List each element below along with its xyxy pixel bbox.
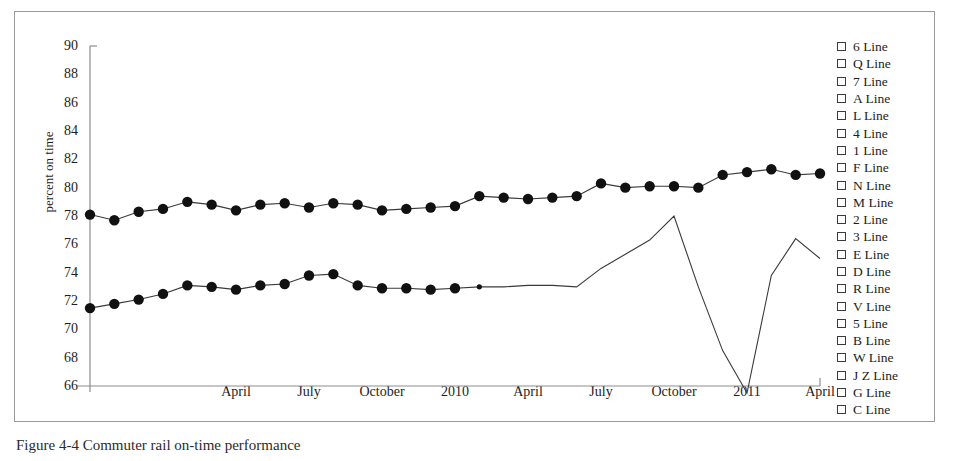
- checkbox-icon[interactable]: [837, 163, 846, 172]
- legend-item[interactable]: 5 Line: [837, 315, 933, 332]
- legend-item-label: N Line: [853, 178, 891, 193]
- checkbox-icon[interactable]: [837, 77, 846, 86]
- legend-item[interactable]: L Line: [837, 107, 933, 124]
- figure-frame: percent on time 908886848280787674727068…: [14, 11, 935, 422]
- data-point-marker: [255, 280, 265, 290]
- legend-item[interactable]: G Line: [837, 384, 933, 401]
- data-point-marker: [401, 283, 411, 293]
- series-line-upper-series: [90, 169, 820, 220]
- checkbox-icon[interactable]: [837, 181, 846, 190]
- legend-item-label: C Line: [853, 402, 890, 417]
- legend: 6 LineQ Line7 LineA LineL Line4 Line1 Li…: [837, 38, 933, 419]
- legend-item-label: R Line: [853, 281, 890, 296]
- checkbox-icon[interactable]: [837, 267, 846, 276]
- legend-item[interactable]: M Line: [837, 194, 933, 211]
- data-point-marker: [571, 191, 581, 201]
- data-point-marker: [717, 170, 727, 180]
- checkbox-icon[interactable]: [837, 111, 846, 120]
- checkbox-icon[interactable]: [837, 302, 846, 311]
- legend-item[interactable]: F Line: [837, 159, 933, 176]
- data-point-marker: [477, 284, 482, 289]
- data-point-marker: [279, 279, 289, 289]
- legend-item[interactable]: 1 Line: [837, 142, 933, 159]
- data-point-marker: [109, 299, 119, 309]
- figure-caption: Figure 4-4 Commuter rail on-time perform…: [16, 436, 936, 461]
- data-point-marker: [377, 205, 387, 215]
- legend-item[interactable]: R Line: [837, 280, 933, 297]
- checkbox-icon[interactable]: [837, 284, 846, 293]
- checkbox-icon[interactable]: [837, 129, 846, 138]
- legend-item[interactable]: Q Line: [837, 55, 933, 72]
- checkbox-icon[interactable]: [837, 232, 846, 241]
- checkbox-icon[interactable]: [837, 94, 846, 103]
- legend-item-label: V Line: [853, 299, 891, 314]
- legend-item[interactable]: 2 Line: [837, 211, 933, 228]
- checkbox-icon[interactable]: [837, 388, 846, 397]
- checkbox-icon[interactable]: [837, 59, 846, 68]
- legend-item-label: G Line: [853, 385, 891, 400]
- legend-item-label: L Line: [853, 108, 889, 123]
- data-point-marker: [158, 289, 168, 299]
- data-point-marker: [109, 215, 119, 225]
- data-point-marker: [352, 199, 362, 209]
- data-point-marker: [231, 205, 241, 215]
- checkbox-icon[interactable]: [837, 215, 846, 224]
- legend-item[interactable]: C Line: [837, 401, 933, 418]
- data-point-marker: [693, 182, 703, 192]
- data-point-marker: [158, 204, 168, 214]
- plot-svg: [15, 12, 936, 423]
- checkbox-icon[interactable]: [837, 353, 846, 362]
- checkbox-icon[interactable]: [837, 42, 846, 51]
- legend-item[interactable]: W Line: [837, 349, 933, 366]
- data-point-marker: [547, 192, 557, 202]
- legend-item[interactable]: E Line: [837, 246, 933, 263]
- checkbox-icon[interactable]: [837, 405, 846, 414]
- data-series-group: [85, 164, 825, 393]
- legend-item-label: D Line: [853, 264, 891, 279]
- data-point-marker: [425, 202, 435, 212]
- legend-item[interactable]: 6 Line: [837, 38, 933, 55]
- legend-item-label: 1 Line: [853, 143, 888, 158]
- data-point-marker: [620, 182, 630, 192]
- data-point-marker: [596, 178, 606, 188]
- checkbox-icon[interactable]: [837, 250, 846, 259]
- legend-item-label: F Line: [853, 160, 889, 175]
- legend-item[interactable]: 3 Line: [837, 228, 933, 245]
- legend-item[interactable]: B Line: [837, 332, 933, 349]
- legend-item-label: B Line: [853, 333, 890, 348]
- series-line-lower-series: [90, 216, 820, 393]
- legend-item[interactable]: N Line: [837, 176, 933, 193]
- legend-item-label: 3 Line: [853, 229, 888, 244]
- data-point-marker: [304, 202, 314, 212]
- legend-item[interactable]: 7 Line: [837, 73, 933, 90]
- chart-region: percent on time 908886848280787674727068…: [15, 12, 936, 423]
- legend-item[interactable]: A Line: [837, 90, 933, 107]
- legend-item-label: Q Line: [853, 56, 891, 71]
- data-point-marker: [231, 284, 241, 294]
- checkbox-icon[interactable]: [837, 146, 846, 155]
- data-point-marker: [498, 192, 508, 202]
- legend-item[interactable]: J Z Line: [837, 367, 933, 384]
- legend-item[interactable]: V Line: [837, 297, 933, 314]
- checkbox-icon[interactable]: [837, 319, 846, 328]
- data-point-marker: [352, 280, 362, 290]
- legend-item-label: 5 Line: [853, 316, 888, 331]
- data-point-marker: [133, 294, 143, 304]
- legend-item-label: M Line: [853, 195, 893, 210]
- data-point-marker: [182, 197, 192, 207]
- data-point-marker: [377, 283, 387, 293]
- data-point-marker: [182, 280, 192, 290]
- checkbox-icon[interactable]: [837, 336, 846, 345]
- legend-item[interactable]: D Line: [837, 263, 933, 280]
- checkbox-icon[interactable]: [837, 371, 846, 380]
- data-point-marker: [766, 164, 776, 174]
- legend-item-label: J Z Line: [853, 368, 898, 383]
- data-point-marker: [206, 282, 216, 292]
- data-point-marker: [450, 283, 460, 293]
- data-point-marker: [644, 181, 654, 191]
- checkbox-icon[interactable]: [837, 198, 846, 207]
- data-point-marker: [328, 269, 338, 279]
- data-point-marker: [474, 191, 484, 201]
- data-point-marker: [790, 170, 800, 180]
- legend-item[interactable]: 4 Line: [837, 124, 933, 141]
